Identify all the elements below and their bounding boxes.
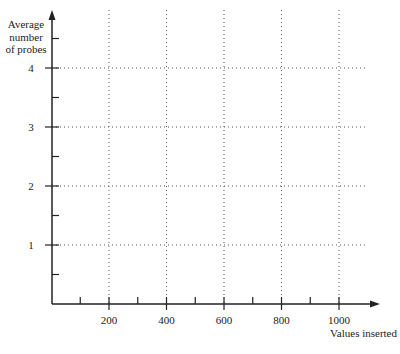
y-axis-arrow-icon <box>49 10 56 20</box>
y-axis-label: Averagenumberof probes <box>5 18 46 55</box>
grid-lines <box>52 10 367 304</box>
axes <box>49 10 381 308</box>
x-tick-label: 800 <box>273 314 290 326</box>
x-tick-label: 600 <box>216 314 233 326</box>
y-tick-label: 4 <box>28 62 34 74</box>
y-tick-label: 3 <box>28 121 34 133</box>
x-axis-label: Values inserted <box>330 327 397 339</box>
x-axis-arrow-icon <box>370 301 380 308</box>
axis-ticks <box>45 39 339 311</box>
x-tick-label: 1000 <box>328 314 351 326</box>
chart: 20040060080010001234 Averagenumberof pro… <box>0 0 400 354</box>
x-tick-label: 200 <box>101 314 118 326</box>
y-tick-label: 1 <box>28 239 34 251</box>
y-tick-label: 2 <box>28 180 34 192</box>
x-tick-label: 400 <box>158 314 175 326</box>
tick-labels: 20040060080010001234 <box>28 62 350 326</box>
